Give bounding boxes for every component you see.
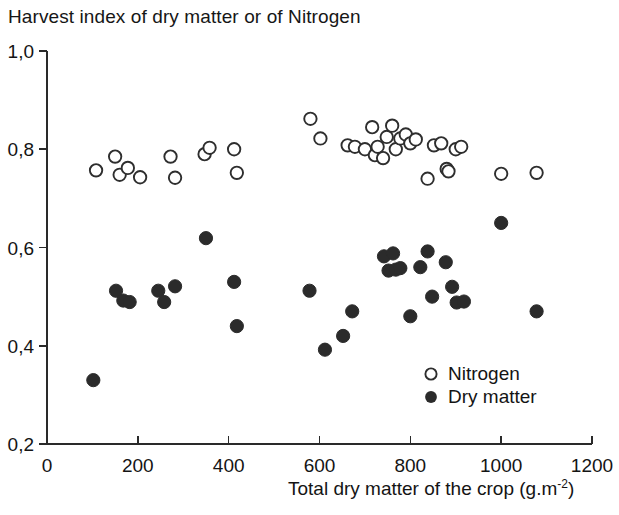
- y-tick-label: 0,8: [8, 139, 34, 160]
- x-tick-label: 200: [122, 455, 154, 476]
- data-point: [314, 132, 326, 144]
- x-tick-label: 1200: [571, 455, 613, 476]
- legend-label-nitrogen: Nitrogen: [444, 363, 520, 385]
- y-tick-label: 0,4: [8, 336, 35, 357]
- x-axis-tick-labels: 020040060080010001200: [42, 455, 613, 476]
- data-point: [231, 167, 243, 179]
- data-point: [530, 167, 542, 179]
- x-tick-label: 800: [394, 455, 426, 476]
- data-point: [169, 172, 181, 184]
- x-axis-label-tail: ): [568, 478, 574, 499]
- scatter-chart-figure: Harvest index of dry matter or of Nitrog…: [0, 0, 619, 515]
- data-point: [303, 284, 316, 297]
- data-point: [495, 216, 508, 229]
- data-point: [337, 329, 350, 342]
- data-point: [199, 232, 212, 245]
- data-point: [377, 152, 389, 164]
- data-point: [446, 280, 459, 293]
- data-point: [228, 275, 241, 288]
- series-nitrogen-points: [90, 113, 543, 185]
- data-point: [134, 171, 146, 183]
- data-point: [164, 150, 176, 162]
- data-point: [87, 374, 100, 387]
- data-point: [318, 343, 331, 356]
- data-point: [455, 141, 467, 153]
- data-point: [386, 119, 398, 131]
- data-point: [442, 165, 454, 177]
- data-point: [426, 290, 439, 303]
- data-point: [203, 142, 215, 154]
- data-point: [366, 121, 378, 133]
- data-point: [158, 295, 171, 308]
- data-point: [109, 150, 121, 162]
- filled-circle-icon: [422, 388, 444, 406]
- data-point: [230, 320, 243, 333]
- data-point: [421, 245, 434, 258]
- y-tick-label: 0,6: [8, 238, 34, 259]
- data-point: [495, 168, 507, 180]
- x-axis-label-base: Total dry matter of the crop (g.m: [288, 478, 557, 499]
- data-point: [394, 262, 407, 275]
- plot-area: 0,20,40,60,81,0 020040060080010001200: [0, 0, 619, 515]
- x-axis-label: Total dry matter of the crop (g.m-2): [288, 478, 574, 500]
- y-tick-label: 0,2: [8, 434, 34, 455]
- legend-item-dry-matter: Dry matter: [422, 385, 537, 408]
- data-point: [404, 310, 417, 323]
- data-point: [439, 256, 452, 269]
- x-tick-label: 1000: [480, 455, 522, 476]
- data-point: [457, 295, 470, 308]
- data-point: [421, 173, 433, 185]
- y-tick-label: 1,0: [8, 41, 34, 62]
- open-circle-icon: [422, 365, 444, 383]
- data-point: [414, 261, 427, 274]
- x-axis-label-exponent: -2: [557, 477, 568, 491]
- legend-item-nitrogen: Nitrogen: [422, 362, 537, 385]
- data-point: [168, 280, 181, 293]
- data-point: [435, 137, 447, 149]
- data-point: [123, 295, 136, 308]
- data-point: [228, 143, 240, 155]
- data-point: [346, 305, 359, 318]
- data-point: [90, 164, 102, 176]
- legend-label-dry-matter: Dry matter: [444, 386, 537, 408]
- data-point: [530, 305, 543, 318]
- data-point: [304, 113, 316, 125]
- chart-legend: Nitrogen Dry matter: [422, 362, 537, 408]
- data-point: [122, 162, 134, 174]
- data-point: [410, 133, 422, 145]
- x-tick-label: 600: [304, 455, 336, 476]
- x-tick-label: 400: [213, 455, 245, 476]
- y-axis-tick-labels: 0,20,40,60,81,0: [8, 41, 35, 455]
- x-tick-label: 0: [42, 455, 53, 476]
- data-point: [386, 247, 399, 260]
